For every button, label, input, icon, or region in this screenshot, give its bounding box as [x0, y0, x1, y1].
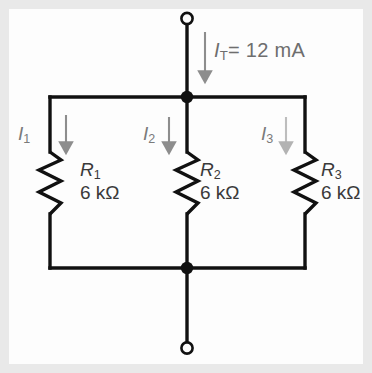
branch-3-current-label: I3 [261, 124, 273, 145]
total-current-label: IT= 12 mA [214, 40, 305, 62]
branch-1-current-subscript: 1 [23, 132, 30, 146]
figure-frame: IT= 12 mA I1 I2 I3 R1 6 kΩ R2 6 kΩ R3 6 … [0, 0, 372, 373]
resistor-1-name: R1 [80, 159, 120, 182]
resistor-3-name: R3 [321, 159, 361, 182]
circuit-diagram-canvas: IT= 12 mA I1 I2 I3 R1 6 kΩ R2 6 kΩ R3 6 … [9, 9, 363, 364]
bottom-terminal-open-circle [181, 342, 192, 353]
circuit-schematic [9, 9, 363, 364]
resistor-2-name: R2 [200, 159, 240, 182]
top-terminal-open-circle [181, 13, 192, 24]
resistor-1-value: 6 kΩ [80, 182, 120, 203]
total-current-value: = 12 mA [228, 39, 305, 61]
resistor-3-value: 6 kΩ [321, 182, 361, 203]
branch-3-current-subscript: 3 [266, 132, 273, 146]
top-junction-dot [181, 91, 193, 103]
branch-1-current-label: I1 [18, 124, 30, 145]
resistor-1-label: R1 6 kΩ [80, 159, 120, 203]
bottom-junction-dot [181, 262, 193, 274]
resistor-2-value: 6 kΩ [200, 182, 240, 203]
resistor-3-symbol [294, 152, 316, 214]
resistor-2-symbol [176, 152, 198, 214]
total-current-subscript: T [220, 48, 228, 63]
resistor-2-label: R2 6 kΩ [200, 159, 240, 203]
branch-2-current-label: I2 [143, 124, 155, 145]
resistor-1-symbol [39, 152, 61, 214]
branch-2-current-subscript: 2 [148, 132, 155, 146]
resistor-3-label: R3 6 kΩ [321, 159, 361, 203]
